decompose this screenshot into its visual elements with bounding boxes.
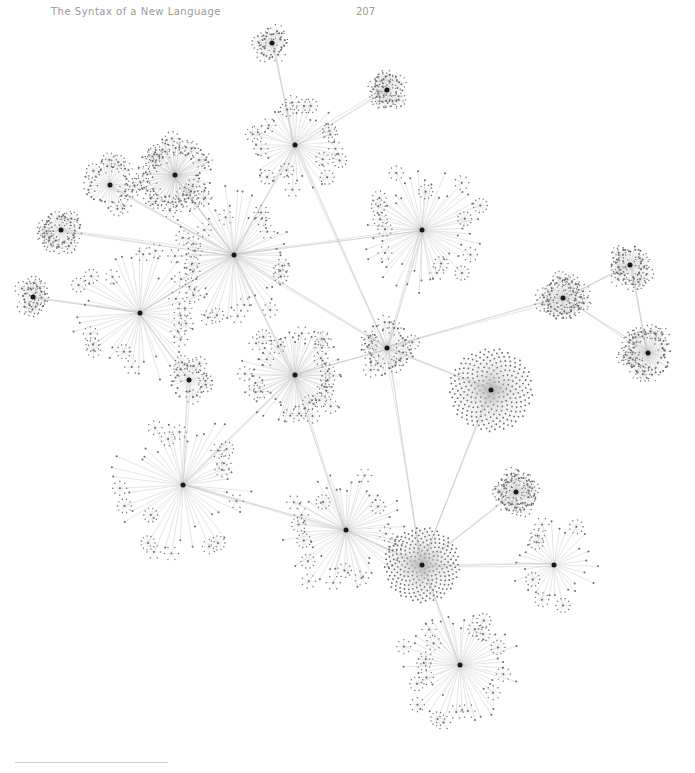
cluster-h5 <box>237 326 342 423</box>
cluster-h14 <box>611 245 655 292</box>
cluster-h22 <box>170 355 214 405</box>
cluster-h3 <box>245 95 347 197</box>
cluster-h10 <box>449 348 533 432</box>
cluster-h11 <box>396 613 517 729</box>
cluster-h7 <box>111 420 252 560</box>
cluster-h1 <box>167 185 290 325</box>
cluster-h12 <box>514 518 599 613</box>
graph-clusters <box>15 24 671 729</box>
cluster-h18 <box>83 152 142 216</box>
network-graph-figure <box>0 0 695 773</box>
cluster-h4 <box>71 243 208 380</box>
cluster-h9 <box>384 527 460 603</box>
cluster-h2 <box>133 131 213 217</box>
footnote-divider <box>15 762 168 763</box>
cluster-h13 <box>535 271 592 320</box>
cluster-h20 <box>251 24 288 63</box>
cluster-h19 <box>37 211 83 254</box>
cluster-h21 <box>367 70 406 109</box>
cluster-h6 <box>365 165 488 294</box>
cluster-h23 <box>15 276 50 317</box>
cluster-h16 <box>492 467 540 518</box>
